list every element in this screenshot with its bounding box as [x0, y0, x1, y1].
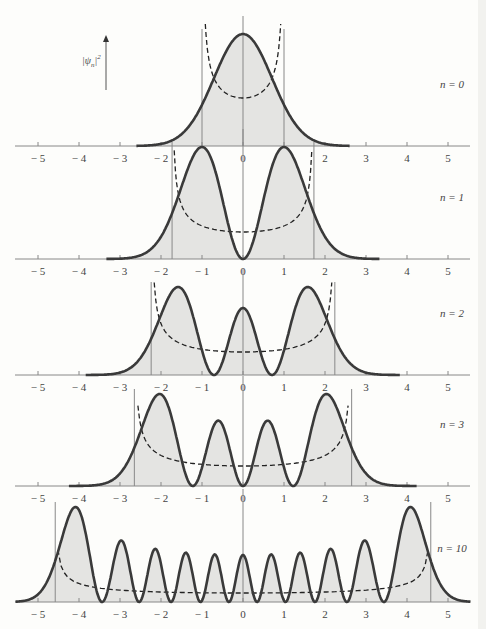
x-tick-label: − 5	[31, 381, 46, 393]
oscillator-probability-figure: − 5− 4− 3− 2− 1012345n = 0− 5− 4− 3− 2− …	[0, 0, 486, 629]
x-tick-label: 3	[363, 608, 369, 620]
x-tick-label: − 1	[195, 381, 209, 393]
x-tick-label: − 3	[113, 492, 128, 504]
panel-label: n = 3	[440, 418, 464, 430]
x-tick-label: − 5	[31, 492, 46, 504]
x-tick-label: − 2	[154, 265, 168, 277]
x-tick-label: 4	[404, 608, 410, 620]
x-tick-label: 1	[281, 265, 287, 277]
x-tick-label: − 4	[72, 608, 87, 620]
x-tick-label: − 1	[195, 608, 209, 620]
x-tick-label: 3	[363, 265, 369, 277]
x-tick-label: − 5	[31, 152, 46, 164]
x-tick-label: 3	[363, 152, 369, 164]
panel-label: n = 0	[440, 78, 464, 90]
x-tick-label: 3	[363, 381, 369, 393]
x-tick-label: 4	[404, 381, 410, 393]
y-axis-indicator: |ψn|2	[82, 35, 109, 90]
x-tick-label: − 5	[31, 608, 46, 620]
arrow-up-icon	[103, 35, 109, 42]
x-tick-label: − 1	[195, 492, 209, 504]
x-tick-label: − 4	[72, 381, 87, 393]
x-tick-label: − 3	[113, 152, 128, 164]
panel-label: n = 2	[440, 307, 464, 319]
x-tick-label: 4	[404, 265, 410, 277]
x-tick-label: 5	[445, 381, 451, 393]
panel-label: n = 1	[440, 191, 464, 203]
panel-n-3: − 5− 4− 3− 2− 1012345n = 3	[15, 376, 470, 504]
x-tick-label: 2	[322, 265, 328, 277]
x-tick-label: − 3	[113, 381, 128, 393]
x-tick-label: − 4	[72, 152, 87, 164]
x-tick-label: 5	[445, 265, 451, 277]
x-tick-label: 2	[322, 152, 328, 164]
x-tick-label: − 2	[154, 381, 168, 393]
x-tick-label: − 2	[154, 152, 168, 164]
x-tick-label: 2	[322, 608, 328, 620]
x-tick-label: − 1	[195, 265, 209, 277]
x-tick-label: − 3	[113, 265, 128, 277]
x-tick-label: − 3	[113, 608, 128, 620]
x-tick-label: 5	[445, 492, 451, 504]
x-tick-label: 5	[445, 152, 451, 164]
x-tick-label: − 2	[154, 492, 168, 504]
x-tick-label: − 2	[154, 608, 168, 620]
x-tick-label: 3	[363, 492, 369, 504]
x-tick-label: − 5	[31, 265, 46, 277]
panel-label: n = 10	[437, 542, 467, 554]
panel-n-2: − 5− 4− 3− 2− 1012345n = 2	[15, 269, 470, 393]
x-tick-label: 2	[322, 381, 328, 393]
x-tick-label: 4	[404, 492, 410, 504]
x-tick-label: 5	[445, 608, 451, 620]
x-tick-label: − 4	[72, 492, 87, 504]
panel-n-10: − 5− 4− 3− 2− 1012345n = 10	[15, 489, 471, 620]
page-edge	[478, 0, 486, 629]
x-tick-label: 2	[322, 492, 328, 504]
x-tick-label: 1	[281, 608, 287, 620]
x-tick-label: 1	[281, 381, 287, 393]
x-tick-label: 1	[281, 492, 287, 504]
y-axis-label: |ψn|2	[82, 53, 101, 69]
x-tick-label: 4	[404, 152, 410, 164]
x-tick-label: − 4	[72, 265, 87, 277]
x-tick-label: 0	[240, 608, 246, 620]
